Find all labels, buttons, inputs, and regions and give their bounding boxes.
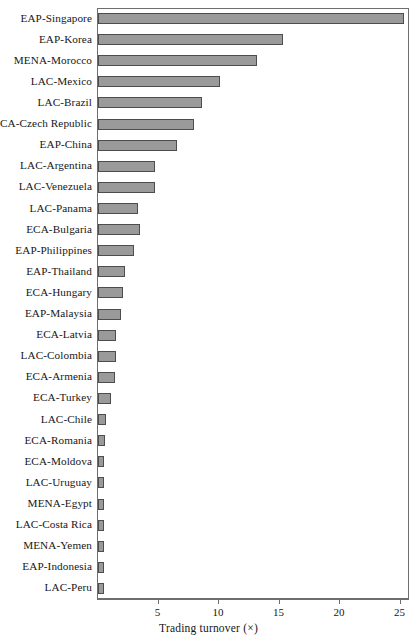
bar	[98, 55, 257, 66]
bar-row: EAP-Indonesia	[0, 557, 417, 578]
bar-row: LAC-Peru	[0, 578, 417, 599]
bar	[98, 13, 404, 24]
bar	[98, 583, 104, 594]
category-label: ECA-Latvia	[36, 329, 92, 340]
category-label: MENA-Morocco	[14, 55, 92, 66]
x-axis-tick-label: 15	[273, 606, 284, 618]
bar-row: ECA-Turkey	[0, 388, 417, 409]
category-label: EAP-Malaysia	[25, 308, 92, 319]
x-axis-tick	[400, 599, 401, 604]
category-label: ECA-Turkey	[33, 392, 92, 403]
x-axis-tick	[158, 599, 159, 604]
bar-row: LAC-Uruguay	[0, 472, 417, 493]
clipped-header-sliver	[0, 0, 417, 5]
bar-row: ECA-Armenia	[0, 367, 417, 388]
x-axis-tick	[339, 599, 340, 604]
bar-row: ECA-Romania	[0, 430, 417, 451]
x-axis-tick-label: 20	[334, 606, 345, 618]
category-label: ECA-Armenia	[26, 371, 92, 382]
bar	[98, 97, 202, 108]
category-label: LAC-Panama	[29, 203, 92, 214]
category-label: LAC-Uruguay	[26, 477, 92, 488]
category-label: ECA-Moldova	[24, 456, 92, 467]
bar-row: MENA-Egypt	[0, 493, 417, 514]
x-axis-line	[97, 599, 409, 600]
bar	[98, 372, 115, 383]
bar	[98, 330, 116, 341]
bar-row: LAC-Chile	[0, 409, 417, 430]
x-axis-title: Trading turnover (×)	[0, 622, 417, 634]
category-label: LAC-Peru	[45, 582, 92, 593]
category-label: ECA-Romania	[24, 435, 92, 446]
bar	[98, 309, 121, 320]
bar	[98, 351, 116, 362]
bar	[98, 203, 138, 214]
category-label: LAC-Chile	[41, 414, 92, 425]
category-label: ECA-Bulgaria	[26, 224, 92, 235]
bar-row: LAC-Costa Rica	[0, 515, 417, 536]
category-label: EAP-Indonesia	[22, 561, 92, 572]
bar-row: EAP-Korea	[0, 29, 417, 50]
x-axis-tick-label: 10	[213, 606, 224, 618]
bar-row: LAC-Colombia	[0, 346, 417, 367]
bar	[98, 477, 104, 488]
bar-row: ECA-Czech Republic	[0, 114, 417, 135]
bar-row: EAP-China	[0, 135, 417, 156]
bar	[98, 182, 155, 193]
category-label: EAP-Philippines	[15, 245, 92, 256]
bar-row: ECA-Bulgaria	[0, 219, 417, 240]
x-axis-tick	[279, 599, 280, 604]
category-label: EAP-Korea	[39, 34, 92, 45]
bar	[98, 287, 123, 298]
category-label: MENA-Yemen	[23, 540, 92, 551]
category-label: LAC-Mexico	[31, 76, 92, 87]
bar-row: EAP-Malaysia	[0, 304, 417, 325]
bar	[98, 245, 134, 256]
category-label: LAC-Costa Rica	[16, 519, 92, 530]
bar-row: LAC-Venezuela	[0, 177, 417, 198]
bars-container: EAP-SingaporeEAP-KoreaMENA-MoroccoLAC-Me…	[0, 8, 417, 599]
bar	[98, 161, 155, 172]
bar	[98, 34, 283, 45]
bar-row: EAP-Philippines	[0, 240, 417, 261]
bar-row: LAC-Brazil	[0, 92, 417, 113]
category-label: MENA-Egypt	[28, 498, 92, 509]
bar	[98, 456, 104, 467]
bar	[98, 119, 194, 130]
bar	[98, 393, 111, 404]
bar-row: MENA-Yemen	[0, 536, 417, 557]
bar-row: EAP-Thailand	[0, 261, 417, 282]
bar	[98, 541, 104, 552]
bar-chart: EAP-SingaporeEAP-KoreaMENA-MoroccoLAC-Me…	[0, 0, 417, 641]
bar-row: ECA-Moldova	[0, 451, 417, 472]
bar	[98, 266, 125, 277]
bar	[98, 140, 177, 151]
bar	[98, 76, 220, 87]
bar-row: LAC-Panama	[0, 198, 417, 219]
category-label: EAP-Singapore	[20, 13, 92, 24]
category-label: LAC-Venezuela	[19, 181, 92, 192]
category-label: LAC-Brazil	[38, 97, 92, 108]
bar	[98, 414, 106, 425]
bar	[98, 562, 104, 573]
bar-row: LAC-Argentina	[0, 156, 417, 177]
x-axis-tick-label: 5	[155, 606, 161, 618]
bar-row: LAC-Mexico	[0, 71, 417, 92]
bar-row: MENA-Morocco	[0, 50, 417, 71]
category-label: EAP-Thailand	[26, 266, 92, 277]
category-label: LAC-Argentina	[20, 160, 92, 171]
bar	[98, 224, 140, 235]
x-axis-tick-label: 25	[394, 606, 405, 618]
bar-row: ECA-Hungary	[0, 282, 417, 303]
category-label: ECA-Czech Republic	[0, 118, 92, 129]
category-label: EAP-China	[40, 139, 92, 150]
bar	[98, 520, 104, 531]
category-label: ECA-Hungary	[26, 287, 92, 298]
bar-row: EAP-Singapore	[0, 8, 417, 29]
bar	[98, 435, 105, 446]
bar	[98, 499, 104, 510]
x-axis-tick	[218, 599, 219, 604]
category-label: LAC-Colombia	[21, 350, 92, 361]
bar-row: ECA-Latvia	[0, 325, 417, 346]
